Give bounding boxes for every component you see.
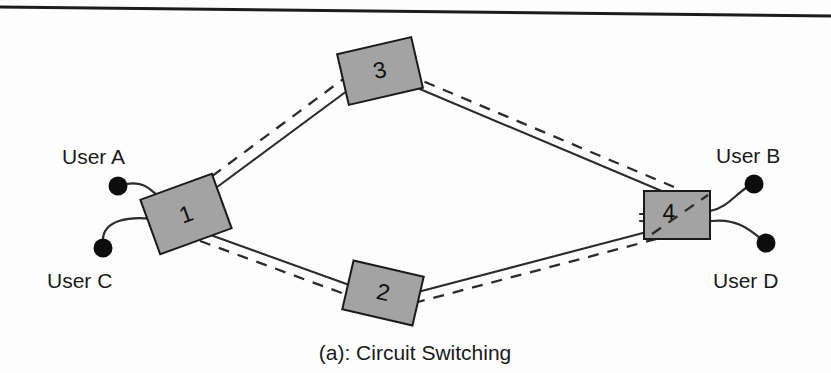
trunk-links-group: [205, 84, 664, 293]
user-a-label: User A: [62, 145, 125, 168]
user-a-dot[interactable]: [109, 177, 128, 196]
user-c-label: User C: [47, 269, 112, 292]
figure-caption: (a): Circuit Switching: [319, 341, 512, 364]
node-3[interactable]: 3: [337, 37, 423, 105]
user-b-dot[interactable]: [745, 175, 764, 194]
user-b-label: User B: [716, 144, 780, 167]
user-d-dot[interactable]: [757, 234, 776, 253]
user-d-label: User D: [713, 269, 778, 292]
circuit-switching-figure: 1 3 2 4: [0, 0, 831, 373]
circuit-lower-seg-2-4: [414, 238, 660, 303]
link-node1-node3: [205, 85, 355, 196]
user-c-dot[interactable]: [94, 239, 113, 258]
link-node2-node4: [414, 228, 662, 293]
network-diagram-canvas: 1 3 2 4: [0, 0, 831, 373]
circuit-upper-seg-3-4: [406, 74, 674, 187]
page-divider-rule: [0, 7, 831, 16]
link-node1-node2: [205, 233, 352, 286]
node-2[interactable]: 2: [342, 261, 423, 326]
circuit-lower-seg-1-2: [200, 241, 350, 296]
link-node3-node4: [408, 84, 664, 192]
circuit-paths-group: [196, 74, 706, 303]
circuit-upper-seg-1-3: [196, 74, 350, 188]
